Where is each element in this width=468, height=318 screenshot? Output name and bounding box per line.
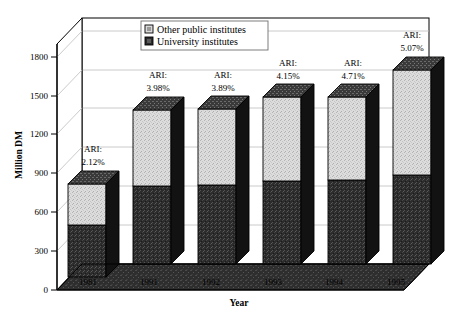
legend-swatch-inner-icon-2 xyxy=(147,39,151,43)
bar-group-1993[interactable] xyxy=(263,84,314,264)
bar-chart-3d: 1800 1500 1200 900 600 300 0 Million DM xyxy=(0,0,468,318)
legend[interactable]: Other public institutes University insti… xyxy=(141,21,268,50)
x-tick-1981: 1981 xyxy=(79,277,97,287)
legend-label-other-public-institutes: Other public institutes xyxy=(157,24,246,35)
chart-container: 1800 1500 1200 900 600 300 0 Million DM xyxy=(0,0,468,318)
ari-label-1981: ARI: xyxy=(84,144,102,154)
ari-label-1992: ARI: xyxy=(214,70,232,80)
legend-item-university-institutes[interactable]: University institutes xyxy=(145,36,238,47)
bar-side-1991 xyxy=(171,97,184,264)
bar-segment-university-1995[interactable] xyxy=(393,175,431,264)
bar-group-1995[interactable] xyxy=(393,57,444,264)
y-axis-tick-labels: 1800 1500 1200 900 600 300 0 xyxy=(30,52,49,295)
ari-value-1991: 3.98% xyxy=(146,83,170,93)
bar-group-1992[interactable] xyxy=(198,96,249,264)
y-tick-300: 300 xyxy=(35,246,49,256)
y-tick-600: 600 xyxy=(35,207,49,217)
ari-label-1994: ARI: xyxy=(344,58,362,68)
y-tick-0: 0 xyxy=(44,285,49,295)
ari-label-1995: ARI: xyxy=(403,30,421,40)
bar-side-1995 xyxy=(431,57,444,264)
bar-segment-other-1995[interactable] xyxy=(393,70,431,175)
ari-label-1991: ARI: xyxy=(149,70,167,80)
bar-segment-university-1981[interactable] xyxy=(68,225,106,277)
x-tick-1991: 1991 xyxy=(140,277,158,287)
bar-side-1981 xyxy=(106,171,119,277)
bar-side-1994 xyxy=(366,84,379,264)
x-tick-1993: 1993 xyxy=(264,277,283,287)
legend-label-university-institutes: University institutes xyxy=(157,36,238,47)
bar-segment-other-1991[interactable] xyxy=(133,110,171,186)
legend-item-other-public-institutes[interactable]: Other public institutes xyxy=(145,24,246,35)
ari-label-1993: ARI: xyxy=(279,58,297,68)
legend-swatch-inner-icon xyxy=(147,27,151,31)
ari-value-1992: 3.89% xyxy=(211,83,235,93)
bar-segment-other-1993[interactable] xyxy=(263,97,301,181)
bar-segment-other-1981[interactable] xyxy=(68,184,106,225)
y-axis xyxy=(51,44,57,290)
bar-segment-university-1993[interactable] xyxy=(263,181,301,264)
bar-segment-university-1994[interactable] xyxy=(328,180,366,264)
x-tick-1995: 1995 xyxy=(387,277,406,287)
bar-group-1994[interactable] xyxy=(328,84,379,264)
x-tick-1994: 1994 xyxy=(325,277,344,287)
x-tick-1992: 1992 xyxy=(202,277,220,287)
bar-segment-university-1991[interactable] xyxy=(133,186,171,264)
bar-segment-other-1992[interactable] xyxy=(198,109,236,185)
ari-value-1995: 5.07% xyxy=(400,43,424,53)
bar-side-1993 xyxy=(301,84,314,264)
bar-group-1981[interactable] xyxy=(68,171,119,277)
y-tick-1800: 1800 xyxy=(30,52,49,62)
y-tick-1500: 1500 xyxy=(30,91,49,101)
y-axis-title: Million DM xyxy=(14,131,24,179)
bar-group-1991[interactable] xyxy=(133,97,184,264)
y-tick-1200: 1200 xyxy=(30,129,49,139)
bar-segment-university-1992[interactable] xyxy=(198,185,236,264)
bar-side-1992 xyxy=(236,96,249,264)
bar-segment-other-1994[interactable] xyxy=(328,97,366,180)
ari-value-1994: 4.71% xyxy=(341,71,365,81)
y-tick-900: 900 xyxy=(35,168,49,178)
ari-value-1981: 2.12% xyxy=(81,157,105,167)
ari-value-1993: 4.15% xyxy=(276,71,300,81)
x-axis-title: Year xyxy=(230,298,250,308)
